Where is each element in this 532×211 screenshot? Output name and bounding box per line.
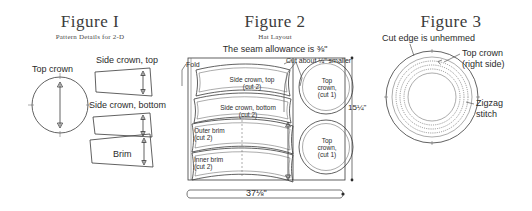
figure-2-drawing: [180, 0, 370, 211]
piece-inner-brim-outer: [192, 148, 293, 182]
figure-3-panel: Figure 3 Cut edge is unhemmed Top crown …: [370, 0, 532, 211]
top-crown-circle-2-inner: [303, 124, 350, 171]
figure-3-drawing: [370, 0, 532, 211]
width-dimension-bracket: [187, 190, 343, 198]
zigzag-ring-3: [404, 69, 460, 125]
zigzag-ring-1: [396, 61, 468, 133]
fold-leader: [182, 64, 186, 86]
cut-edge-leader: [410, 44, 414, 56]
zigzag-ring-2: [400, 65, 464, 129]
top-crown-circle-1-inner: [303, 64, 350, 111]
figure-1-panel: Figure I Pattern Details for 2-D Top cro…: [0, 0, 180, 211]
height-dim-dot-top: [351, 57, 354, 60]
cut-note-leader-1: [284, 60, 292, 64]
piece-outer-brim-outer: [192, 119, 293, 154]
piece-side-crown-bottom-outer: [194, 93, 291, 123]
figure-1-drawing: [0, 0, 180, 211]
piece-side-crown-top-outer: [196, 64, 290, 96]
figure-2-panel: Figure 2 Hat Layout The seam allowance i…: [180, 0, 370, 211]
piece-side-crown-bottom-inner: [197, 97, 288, 119]
layout-rect: [188, 58, 345, 180]
piece-side-crown-top-inner: [199, 68, 287, 92]
width-dim-dot: [341, 192, 344, 195]
crown-ring-inner: [408, 73, 456, 121]
height-dim-dot-bottom: [351, 179, 354, 182]
